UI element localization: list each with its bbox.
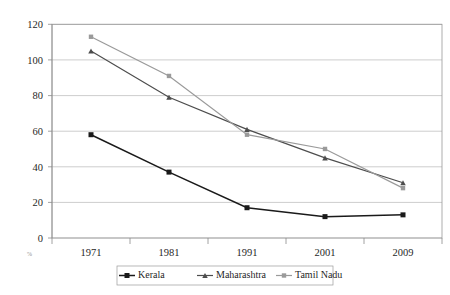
y-tick-label-20: 20 — [33, 197, 44, 208]
y-tick-label-0: 0 — [38, 233, 43, 244]
y-tick-label-100: 100 — [27, 55, 43, 66]
chart-legend: KeralaMaharashtraTamil Nadu — [117, 266, 342, 285]
data-point — [245, 133, 249, 137]
y-tick-label-80: 80 — [33, 90, 44, 101]
percent-mark: % — [27, 251, 32, 257]
data-point — [167, 74, 171, 78]
line-chart: 120 100 80 60 40 20 0 1971 1981 1991 200… — [0, 0, 450, 295]
data-point — [89, 132, 94, 137]
data-point — [89, 35, 93, 39]
series-kerala — [89, 132, 406, 219]
x-tick-label-1981: 1981 — [159, 247, 180, 258]
x-tick-label-2009: 2009 — [393, 247, 414, 258]
data-point — [167, 170, 172, 175]
x-tick-label-1971: 1971 — [81, 247, 102, 258]
x-tick-label-1991: 1991 — [237, 247, 258, 258]
y-axis-ticks — [48, 24, 52, 238]
data-point — [244, 127, 250, 132]
y-tick-label-120: 120 — [27, 19, 43, 30]
legend-marker — [125, 273, 130, 278]
y-tick-label-60: 60 — [33, 126, 44, 137]
data-point — [401, 212, 406, 217]
data-point — [88, 48, 94, 53]
chart-canvas: 120 100 80 60 40 20 0 1971 1981 1991 200… — [0, 0, 450, 295]
y-tick-label-40: 40 — [33, 162, 44, 173]
legend-label: Kerala — [138, 269, 165, 280]
data-point — [401, 186, 405, 190]
data-point — [323, 147, 327, 151]
legend-label: Tamil Nadu — [295, 269, 342, 280]
x-tick-label-2001: 2001 — [315, 247, 336, 258]
series-maharashtra — [88, 48, 406, 185]
series-layer — [88, 35, 406, 220]
data-point — [245, 205, 250, 210]
legend-label: Maharashtra — [216, 269, 267, 280]
data-point — [323, 214, 328, 219]
legend-marker — [282, 273, 286, 277]
x-axis-ticks — [52, 238, 442, 244]
